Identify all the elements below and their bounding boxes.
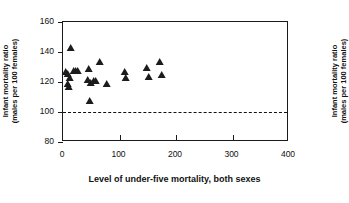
y-axis-title-right-line2: (males per 100 females) [339, 39, 349, 124]
x-axis-tick-label: 400 [268, 149, 308, 159]
y-axis-tick-label: 80 [28, 136, 54, 146]
y-axis-title-left-line1: Infant mortality ratio [1, 39, 11, 124]
y-axis-tick-label: 100 [28, 106, 54, 116]
data-point [142, 64, 150, 71]
data-point [155, 58, 163, 65]
y-axis-title-right: Infant mortality ratio (males per 100 fe… [279, 21, 349, 141]
data-point [85, 65, 93, 72]
y-axis-tick [58, 82, 63, 83]
data-point [67, 44, 75, 51]
y-axis-tick [58, 112, 63, 113]
x-axis-tick-label: 300 [212, 149, 252, 159]
x-axis-tick-label: 0 [42, 149, 82, 159]
data-point [85, 97, 93, 104]
x-axis-title: Level of under-five mortality, both sexe… [0, 174, 349, 184]
y-axis-tick [58, 142, 63, 143]
data-point [102, 80, 110, 87]
data-point [158, 71, 166, 78]
x-axis-tick [176, 135, 177, 140]
x-axis-tick [120, 135, 121, 140]
reference-line [63, 112, 287, 113]
data-point [145, 73, 153, 80]
y-axis-tick [58, 22, 63, 23]
x-axis-tick [233, 135, 234, 140]
x-axis-tick-label: 200 [155, 149, 195, 159]
data-point [91, 77, 99, 84]
y-axis-tick-label: 120 [28, 76, 54, 86]
y-axis-title-right-line1: Infant mortality ratio [330, 39, 340, 124]
data-point [65, 83, 73, 90]
y-axis-tick-label: 160 [28, 16, 54, 26]
data-point [65, 74, 73, 81]
y-axis-tick-label: 140 [28, 46, 54, 56]
y-axis-title-left-line2: (males per 100 females) [10, 39, 20, 124]
chart-figure: Infant mortality ratio (males per 100 fe… [0, 0, 349, 203]
data-point [73, 67, 81, 74]
plot-area [62, 21, 288, 141]
y-axis-tick [58, 52, 63, 53]
data-point [122, 74, 130, 81]
x-axis-tick-label: 100 [99, 149, 139, 159]
data-point [96, 58, 104, 65]
